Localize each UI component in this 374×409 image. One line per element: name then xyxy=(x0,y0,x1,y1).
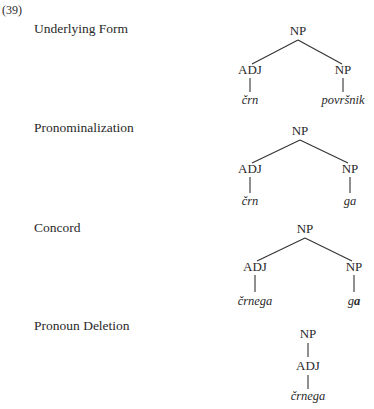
tree2-right-node: NP xyxy=(342,161,359,177)
tree3-left-node: ADJ xyxy=(243,259,267,275)
step-label-pronominalization: Pronominalization xyxy=(34,120,134,136)
step-label-underlying-form: Underlying Form xyxy=(34,21,128,37)
tree3-right-node: NP xyxy=(346,259,363,275)
tree4-root: NP xyxy=(300,326,317,342)
tree4-child-word: črnega xyxy=(291,389,326,404)
tree3-root: NP xyxy=(297,221,314,237)
step-label-pronoun-deletion: Pronoun Deletion xyxy=(34,318,130,334)
tree4-child-node: ADJ xyxy=(296,358,320,374)
example-number: (39) xyxy=(2,3,22,18)
tree1-root: NP xyxy=(290,23,307,39)
tree1-left-word: črn xyxy=(242,93,259,108)
tree1-left-node: ADJ xyxy=(238,62,262,78)
step-label-concord: Concord xyxy=(34,220,81,236)
tree1-right-node: NP xyxy=(335,62,352,78)
tree2-left-node: ADJ xyxy=(238,161,262,177)
tree1-right-word: površnik xyxy=(321,93,364,108)
tree-branches xyxy=(0,0,374,409)
tree2-right-word: ga xyxy=(344,194,357,209)
tree2-left-word: črn xyxy=(242,194,259,209)
tree2-root: NP xyxy=(292,123,309,139)
tree3-right-word: ga xyxy=(348,294,361,309)
tree3-left-word: črnega xyxy=(238,294,273,309)
